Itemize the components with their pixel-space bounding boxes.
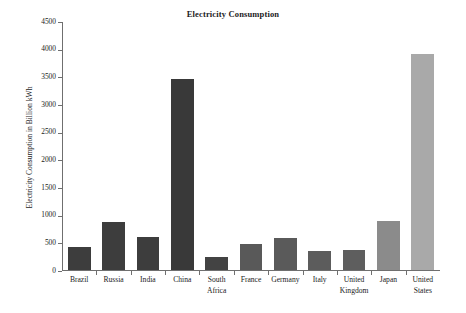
bar-china (171, 79, 194, 270)
y-tick-mark (58, 22, 62, 23)
y-tick-mark (58, 50, 62, 51)
y-tick-mark (58, 216, 62, 217)
y-tick-mark (58, 271, 62, 272)
x-label-russia: Russia (96, 275, 130, 286)
chart-title: Electricity Consumption (0, 9, 466, 19)
y-axis-line (62, 22, 63, 271)
bar-brazil (68, 247, 91, 270)
bar-united-states (411, 54, 434, 270)
y-tick-label: 2000 (41, 155, 56, 164)
y-tick-mark (58, 105, 62, 106)
x-label-united-kingdom: United Kingdom (337, 275, 371, 296)
x-label-italy: Italy (303, 275, 337, 286)
y-tick-mark (58, 77, 62, 78)
bar-germany (274, 238, 297, 270)
x-label-south-africa: South Africa (199, 275, 233, 296)
x-label-united-states: United States (406, 275, 440, 296)
x-label-germany: Germany (268, 275, 302, 286)
bar-india (137, 237, 160, 270)
y-tick-label: 500 (45, 238, 56, 247)
x-label-france: France (234, 275, 268, 286)
y-tick-label: 4500 (41, 17, 56, 26)
y-tick-label: 1500 (41, 183, 56, 192)
x-label-brazil: Brazil (62, 275, 96, 286)
y-tick-label: 3500 (41, 72, 56, 81)
y-tick-mark (58, 160, 62, 161)
x-axis-line (62, 270, 440, 271)
x-label-china: China (165, 275, 199, 286)
y-tick-label: 0 (52, 266, 56, 275)
x-label-india: India (131, 275, 165, 286)
y-axis-title: Electricity Consumption in Billion kWh (25, 48, 34, 248)
y-tick-label: 1000 (41, 210, 56, 219)
bar-russia (102, 222, 125, 270)
y-tick-mark (58, 188, 62, 189)
plot-area: 050010001500200025003000350040004500 (62, 22, 440, 271)
y-tick-label: 2500 (41, 127, 56, 136)
x-label-japan: Japan (371, 275, 405, 286)
y-tick-label: 4000 (41, 44, 56, 53)
bar-united-kingdom (343, 250, 366, 270)
bar-south-africa (205, 257, 228, 270)
y-tick-label: 3000 (41, 100, 56, 109)
bar-italy (308, 251, 331, 270)
y-tick-mark (58, 133, 62, 134)
y-tick-mark (58, 243, 62, 244)
bar-chart-figure: Electricity Consumption Electricity Cons… (0, 0, 466, 313)
bar-france (240, 244, 263, 270)
bar-japan (377, 221, 400, 270)
